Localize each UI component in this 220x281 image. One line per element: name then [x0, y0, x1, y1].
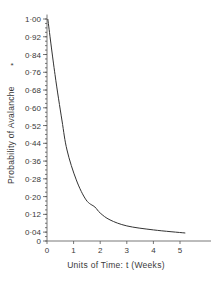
y-tick-label: 1·00: [25, 15, 42, 24]
y-tick-label: 0·36: [25, 157, 42, 166]
y-tick-label: 0·76: [25, 68, 42, 77]
x-tick-label: 3: [125, 246, 130, 255]
x-tick-label: 2: [98, 246, 103, 255]
x-tick-label: 1: [71, 246, 76, 255]
x-axis-title: Units of Time: t (Weeks): [67, 260, 165, 270]
x-tick-label: 5: [178, 246, 183, 255]
y-tick-label: 0·44: [25, 139, 42, 148]
x-tick-label: 0: [45, 246, 50, 255]
avalanche-probability-chart: 00·040·120·200·280·360·440·520·600·680·7…: [0, 0, 220, 281]
y-tick-label: 0·20: [25, 193, 42, 202]
y-tick-label: 0: [37, 237, 42, 246]
y-tick-label: 0·60: [25, 104, 42, 113]
x-axis: 012345: [45, 241, 211, 255]
y-tick-label: 0·12: [25, 210, 42, 219]
asterisk-mark: *: [10, 61, 13, 70]
y-tick-label: 0·68: [25, 86, 42, 95]
y-axis-title: Probability of Avalanche: [6, 86, 16, 184]
plot-area: 00·040·120·200·280·360·440·520·600·680·7…: [0, 0, 220, 281]
probability-curve: [48, 19, 186, 233]
y-tick-label: 0·28: [25, 175, 42, 184]
y-tick-label: 0·04: [25, 228, 42, 237]
y-tick-label: 0·84: [25, 51, 42, 60]
x-tick-label: 4: [151, 246, 156, 255]
y-tick-label: 0·92: [25, 33, 42, 42]
y-axis: 00·040·120·200·280·360·440·520·600·680·7…: [25, 15, 47, 246]
y-tick-label: 0·52: [25, 122, 42, 131]
